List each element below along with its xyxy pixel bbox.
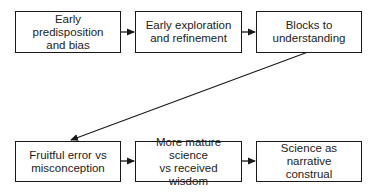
- node-more-mature-science: More mature science vs received wisdom: [135, 141, 242, 182]
- node-fruitful-error: Fruitful error vs misconception: [15, 141, 121, 182]
- node-label: Early exploration and refinement: [146, 19, 232, 45]
- node-label: Early predisposition and bias: [20, 13, 116, 52]
- node-science-as-narrative: Science as narrative construal: [256, 141, 362, 182]
- node-label: More mature science vs received wisdom: [140, 136, 237, 188]
- node-early-predisposition: Early predisposition and bias: [15, 11, 121, 53]
- node-early-exploration: Early exploration and refinement: [135, 11, 242, 53]
- node-label: Fruitful error vs misconception: [29, 149, 106, 175]
- arrow-n3-n4: [71, 52, 308, 140]
- node-label: Blocks to understanding: [273, 19, 346, 45]
- node-blocks-to-understanding: Blocks to understanding: [256, 11, 362, 53]
- node-label: Science as narrative construal: [261, 142, 357, 181]
